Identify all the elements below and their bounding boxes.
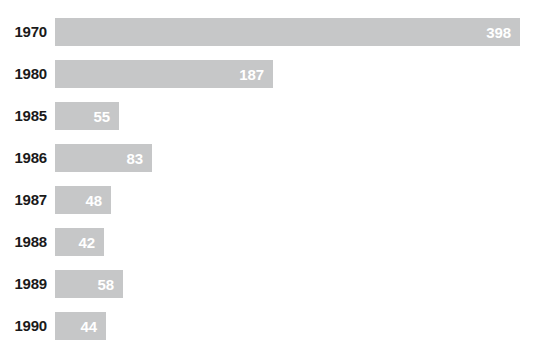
- bar-1987[interactable]: 48: [55, 186, 111, 214]
- bar-track: 48: [55, 186, 541, 214]
- horizontal-bar-chart: 1970 398 1980 187 1985 55 1986 83: [0, 0, 541, 352]
- bar-value-label: 83: [127, 151, 144, 166]
- category-label-1990: 1990: [0, 312, 55, 340]
- bar-1990[interactable]: 44: [55, 312, 106, 340]
- bar-1970[interactable]: 398: [55, 18, 520, 46]
- bar-track: 83: [55, 144, 541, 172]
- chart-row: 1989 58: [0, 270, 541, 298]
- bar-value-label: 187: [239, 67, 264, 82]
- bar-track: 187: [55, 60, 541, 88]
- chart-row: 1970 398: [0, 18, 541, 46]
- chart-row: 1988 42: [0, 228, 541, 256]
- category-label-1985: 1985: [0, 102, 55, 130]
- category-label-1980: 1980: [0, 60, 55, 88]
- bar-value-label: 398: [486, 25, 511, 40]
- bar-value-label: 58: [98, 277, 115, 292]
- bar-track: 42: [55, 228, 541, 256]
- bar-1985[interactable]: 55: [55, 102, 119, 130]
- bar-value-label: 48: [86, 193, 103, 208]
- category-label-1986: 1986: [0, 144, 55, 172]
- bar-1988[interactable]: 42: [55, 228, 104, 256]
- bar-value-label: 55: [94, 109, 111, 124]
- bar-1986[interactable]: 83: [55, 144, 152, 172]
- category-label-1988: 1988: [0, 228, 55, 256]
- bar-track: 398: [55, 18, 541, 46]
- bar-1989[interactable]: 58: [55, 270, 123, 298]
- bar-track: 55: [55, 102, 541, 130]
- chart-row: 1980 187: [0, 60, 541, 88]
- chart-row: 1990 44: [0, 312, 541, 340]
- bar-track: 58: [55, 270, 541, 298]
- category-label-1989: 1989: [0, 270, 55, 298]
- category-label-1970: 1970: [0, 18, 55, 46]
- bar-track: 44: [55, 312, 541, 340]
- bar-1980[interactable]: 187: [55, 60, 273, 88]
- bar-value-label: 44: [81, 319, 98, 334]
- chart-row: 1987 48: [0, 186, 541, 214]
- category-label-1987: 1987: [0, 186, 55, 214]
- chart-row: 1986 83: [0, 144, 541, 172]
- chart-row: 1985 55: [0, 102, 541, 130]
- bar-value-label: 42: [79, 235, 96, 250]
